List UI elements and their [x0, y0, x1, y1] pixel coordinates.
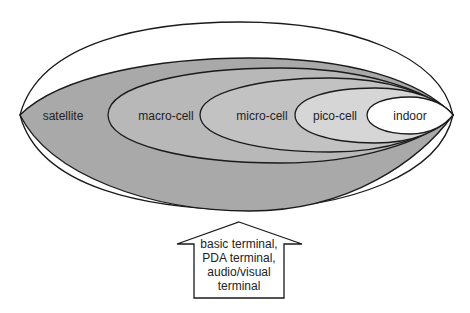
- macro-cell-label: macro-cell: [138, 109, 193, 123]
- indoor-label: indoor: [393, 109, 426, 123]
- arrow-line-4: terminal: [192, 279, 286, 293]
- micro-cell-label: micro-cell: [236, 109, 287, 123]
- arrow-line-3: audio/visual: [192, 265, 286, 279]
- arrow-line-2: PDA terminal,: [192, 251, 286, 265]
- satellite-label: satellite: [43, 109, 84, 123]
- arrow-line-1: basic terminal,: [192, 237, 286, 251]
- pico-cell-label: pico-cell: [313, 109, 357, 123]
- terminal-types-label: basic terminal, PDA terminal, audio/visu…: [192, 237, 286, 293]
